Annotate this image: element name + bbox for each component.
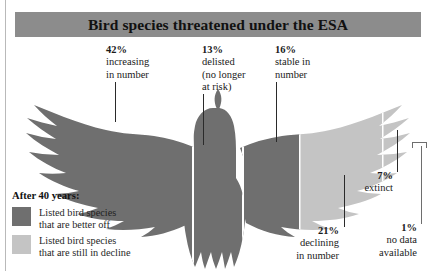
callout-delisted-pct: 13% bbox=[202, 44, 223, 55]
callout-declining-line2: in number bbox=[296, 250, 339, 261]
callout-stable: 16% stable in number bbox=[275, 44, 310, 81]
callout-stable-line1: stable in bbox=[275, 56, 310, 67]
callout-increasing-pct: 42% bbox=[106, 44, 127, 55]
legend-better-off-line1: Listed bird species bbox=[39, 207, 116, 218]
divider-42-13 bbox=[192, 56, 194, 271]
callout-increasing: 42% increasing in number bbox=[106, 44, 149, 81]
legend-swatch-better-off bbox=[12, 207, 31, 226]
legend-label-better-off: Listed bird species that are better off bbox=[39, 207, 116, 230]
callout-no-data: 1% no data available bbox=[355, 222, 417, 259]
callout-declining: 21% declining in number bbox=[275, 225, 339, 262]
leader-stable bbox=[276, 82, 277, 142]
callout-no-data-line1: no data bbox=[386, 234, 417, 245]
leader-no-data bbox=[421, 146, 422, 224]
leader-increasing bbox=[115, 82, 116, 122]
legend-title: After 40 years: bbox=[12, 190, 182, 201]
callout-no-data-pct: 1% bbox=[401, 222, 417, 233]
callout-stable-pct: 16% bbox=[275, 44, 296, 55]
legend-item-better-off: Listed bird species that are better off bbox=[12, 207, 182, 230]
callout-stable-line2: number bbox=[275, 69, 307, 80]
callout-delisted-line2: (no longer bbox=[202, 69, 245, 80]
leader-delisted bbox=[203, 94, 204, 145]
legend-in-decline-line1: Listed bird species bbox=[39, 235, 116, 246]
callout-increasing-line2: in number bbox=[106, 69, 149, 80]
leader-extinct bbox=[397, 130, 398, 172]
legend-swatch-in-decline bbox=[12, 235, 31, 254]
callout-delisted: 13% delisted (no longer at risk) bbox=[202, 44, 245, 94]
legend-item-in-decline: Listed bird species that are still in de… bbox=[12, 235, 182, 258]
callout-no-data-line2: available bbox=[379, 247, 417, 258]
callout-declining-pct: 21% bbox=[318, 225, 339, 236]
legend: After 40 years: Listed bird species that… bbox=[12, 190, 182, 263]
infographic-root: Bird species threatened under the ESA bbox=[0, 0, 436, 271]
callout-extinct-line1: extinct bbox=[364, 182, 393, 193]
callout-extinct: 7% extinct bbox=[345, 170, 393, 195]
title-bar: Bird species threatened under the ESA bbox=[15, 12, 421, 37]
page-title: Bird species threatened under the ESA bbox=[88, 16, 348, 34]
callout-extinct-pct: 7% bbox=[377, 170, 393, 181]
callout-delisted-line3: at risk) bbox=[202, 81, 231, 92]
legend-better-off-line2: that are better off bbox=[39, 219, 110, 230]
callout-delisted-line1: delisted bbox=[202, 56, 235, 67]
legend-in-decline-line2: that are still in decline bbox=[39, 247, 131, 258]
callout-increasing-line1: increasing bbox=[106, 56, 149, 67]
legend-label-in-decline: Listed bird species that are still in de… bbox=[39, 235, 131, 258]
bracket-no-data bbox=[412, 142, 427, 148]
callout-declining-line1: declining bbox=[300, 237, 339, 248]
